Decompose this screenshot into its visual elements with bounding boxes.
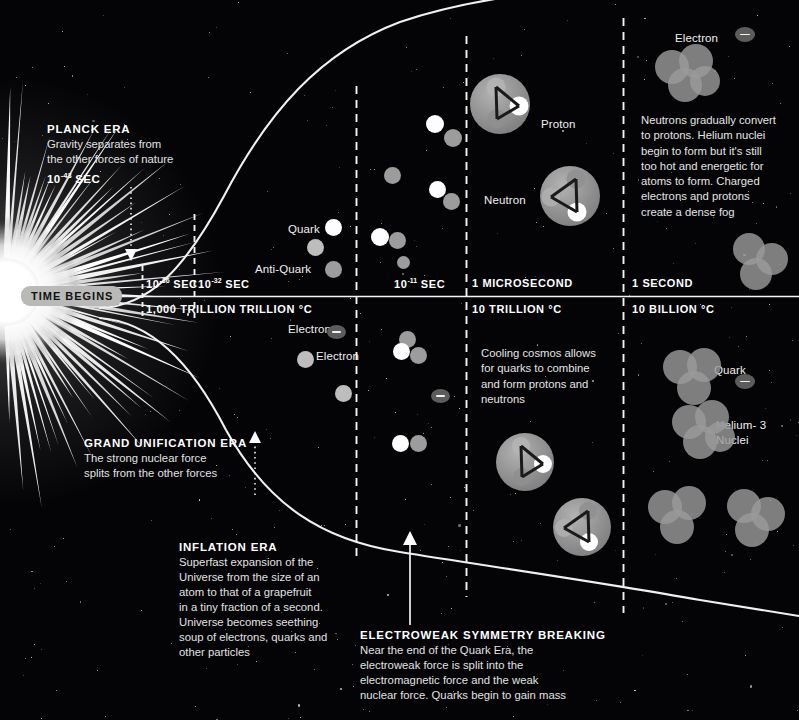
temperature-tick-1: 10 TRILLION °C (472, 303, 562, 315)
quark-cluster-4c (410, 347, 427, 364)
quark-cluster-1a (426, 115, 444, 133)
callout-planck-time: 10-43 SEC (47, 171, 173, 185)
callout-inflation-heading: INFLATION ERA (179, 541, 327, 553)
time-tick-0: 10-36 SEC (146, 277, 198, 290)
electron-glyph-2 (431, 389, 450, 403)
callout-inflation-era: INFLATION ERA Superfast expansion of the… (179, 541, 327, 660)
callout-electroweak-heading: ELECTROWEAK SYMMETRY BREAKING (360, 629, 606, 641)
quark-cluster-3a (371, 228, 389, 246)
callout-grand-unification-heading: GRAND UNIFICATION ERA (84, 437, 247, 449)
time-tick-4: 1 SECOND (632, 277, 693, 289)
quark-cluster-3b (389, 232, 406, 249)
temperature-tick-2: 10 BILLION °C (632, 303, 715, 315)
callout-planck-heading: PLANCK ERA (47, 123, 173, 135)
quark-cluster-5a (392, 435, 409, 452)
callout-inflation-body: Superfast expansion of theUniverse from … (179, 555, 327, 660)
time-tick-3: 1 MICROSECOND (472, 277, 573, 289)
nucleon-glyph-lower-2 (553, 498, 611, 556)
label-quark-upper: Quark (288, 223, 320, 235)
label-quark-lower: Electron (316, 350, 359, 362)
quark-cluster-2a (384, 167, 401, 184)
callout-planck-era: PLANCK ERA Gravity separates fromthe oth… (47, 123, 173, 185)
label-anti-quark-upper: Anti-Quark (255, 263, 311, 275)
label-electron-top-right: Electron (675, 32, 718, 44)
nucleon-glyph-lower-1 (496, 433, 554, 491)
quark-cluster-5b (410, 435, 427, 452)
time-tick-2: 10-11 SEC (394, 277, 445, 290)
callout-electroweak-symmetry-breaking: ELECTROWEAK SYMMETRY BREAKING Near the e… (360, 629, 606, 703)
electroweak-pointer (403, 531, 417, 625)
electron-glyph-1 (327, 325, 346, 339)
time-tick-1: 10-32 SEC (198, 277, 250, 290)
neutron-glyph (540, 166, 600, 226)
callout-planck-body: Gravity separates fromthe other forces o… (47, 137, 173, 167)
temperature-tick-0: 1,000 TRILLION TRILLION °C (146, 303, 312, 315)
quark-lower-glyph (297, 351, 314, 368)
label-electron-upper: Electron (288, 323, 331, 335)
quark-lower-glyph-2 (335, 385, 352, 402)
label-neutron: Neutron (484, 194, 526, 206)
anti-quark-upper-glyph (325, 261, 342, 278)
quark-cluster-1b (444, 129, 462, 147)
proton-glyph (470, 74, 530, 134)
quark-cluster-2b (429, 181, 446, 198)
note-neutron-conversion: Neutrons gradually convertto protons. He… (641, 113, 793, 220)
callout-grand-unification-body: The strong nuclear forcesplits from the … (84, 451, 247, 481)
quark-cluster-2c (443, 193, 460, 210)
quark-upper-glyph (325, 219, 342, 236)
grand-unification-pointer (249, 431, 261, 495)
label-proton: Proton (541, 118, 576, 130)
quark-mid-glyph-1 (307, 239, 324, 256)
quark-cluster-3c (397, 256, 410, 269)
note-cooling-cosmos: Cooling cosmos allowsfor quarks to combi… (481, 346, 613, 407)
electron-glyph-4 (735, 374, 755, 389)
callout-electroweak-body: Near the end of the Quark Era, theelectr… (360, 643, 606, 703)
infographic-canvas: TIME BEGINS 10-36 SEC10-32 SEC10-11 SEC1… (0, 0, 799, 720)
electron-glyph-3 (735, 27, 755, 42)
quark-cluster-4b (393, 343, 410, 360)
time-begins-label: TIME BEGINS (21, 286, 122, 306)
callout-grand-unification-era: GRAND UNIFICATION ERA The strong nuclear… (84, 437, 247, 481)
